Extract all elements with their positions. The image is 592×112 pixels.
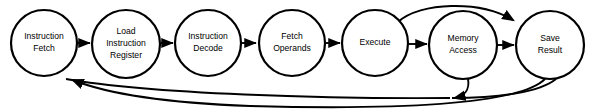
instruction-cycle-diagram: Instruction Fetch Load Instruction Regis… (0, 0, 592, 112)
node-instruction-decode-label-line-2: Decode (193, 43, 223, 53)
node-instruction-fetch-label-line-2: Fetch (33, 43, 55, 53)
edge-lower-rail-left (66, 79, 450, 98)
edge-memory-access-feedback (455, 79, 468, 98)
flowchart-canvas: Instruction Fetch Load Instruction Regis… (0, 0, 592, 112)
edge-save-result-to-instruction-fetch (73, 79, 545, 107)
node-save-result-label-line-1: Save (540, 33, 560, 43)
node-memory-access-label-line-1: Memory (447, 33, 479, 43)
node-execute-label-line-1: Execute (359, 37, 390, 47)
node-memory-access-label-line-2: Access (449, 45, 477, 55)
node-instruction-fetch-label-line-1: Instruction (24, 31, 64, 41)
node-load-instruction-register-label-line-2: Instruction (106, 38, 146, 48)
node-load-instruction-register-label-line-3: Register (110, 50, 142, 60)
node-fetch-operands-label-line-1: Fetch (281, 31, 303, 41)
node-fetch-operands-label-line-2: Operands (273, 43, 311, 53)
node-save-result-label-line-2: Result (538, 45, 563, 55)
node-load-instruction-register-label-line-1: Load (116, 26, 135, 36)
node-instruction-decode-label-line-1: Instruction (188, 31, 228, 41)
